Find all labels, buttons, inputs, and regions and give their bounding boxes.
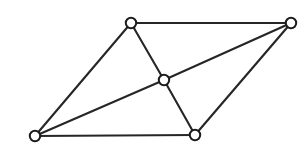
graph-edge-top-right-to-bottom-right	[195, 23, 291, 135]
graph-edge-bottom-left-to-center	[35, 80, 164, 136]
graph-edge-center-to-top-right	[164, 23, 291, 80]
graph-svg	[0, 0, 306, 147]
vertex-layer	[30, 18, 296, 141]
graph-vertex-bottom-right	[190, 130, 200, 140]
graph-edge-top-left-to-bottom-left	[35, 23, 131, 136]
graph-vertex-top-right	[286, 18, 296, 28]
graph-vertex-center	[159, 75, 169, 85]
graph-vertex-bottom-left	[30, 131, 40, 141]
graph-diagram-canvas	[0, 0, 306, 147]
graph-edge-bottom-left-to-bottom-right	[35, 135, 195, 136]
graph-vertex-top-left	[126, 18, 136, 28]
graph-edge-center-to-bottom-right	[164, 80, 195, 135]
graph-edge-top-left-to-center	[131, 23, 164, 80]
